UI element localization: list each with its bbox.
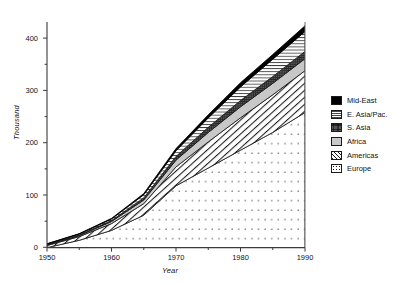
legend-item-europe[interactable]: Europe bbox=[331, 162, 403, 176]
horizontal-lines-swatch-icon bbox=[331, 110, 342, 119]
x-axis-title: Year bbox=[40, 266, 300, 275]
y-tick-label-100: 100 bbox=[12, 191, 38, 200]
legend-label-africa: Africa bbox=[347, 137, 366, 146]
x-axis-major-ticks bbox=[47, 248, 305, 252]
x-tick-label-1970: 1970 bbox=[161, 253, 191, 262]
legend-item-s-asia[interactable]: S. Asia bbox=[331, 121, 403, 135]
x-tick-label-1960: 1960 bbox=[97, 253, 127, 262]
legend-label-e-asia-pac: E. Asia/Pac. bbox=[347, 110, 387, 119]
y-tick-label-400: 400 bbox=[12, 34, 38, 43]
diagonal-hatch-swatch-icon bbox=[331, 151, 342, 160]
solid-black-swatch-icon bbox=[331, 96, 342, 105]
chart-legend: Mid-East E. Asia/Pac. S. Asia Africa Ame… bbox=[331, 94, 403, 176]
legend-label-s-asia: S. Asia bbox=[347, 123, 370, 132]
stacked-area-chart-figure: 400 300 200 100 0 1950 1960 1970 1980 19… bbox=[0, 0, 404, 285]
dotted-swatch-icon bbox=[331, 164, 342, 173]
dark-stipple-swatch-icon bbox=[331, 123, 342, 132]
light-gray-swatch-icon bbox=[331, 137, 342, 146]
x-tick-label-1950: 1950 bbox=[32, 253, 62, 262]
x-tick-label-1980: 1980 bbox=[226, 253, 256, 262]
y-axis-major-ticks bbox=[43, 38, 47, 247]
legend-item-mid-east[interactable]: Mid-East bbox=[331, 94, 403, 108]
legend-item-americas[interactable]: Americas bbox=[331, 148, 403, 162]
legend-item-e-asia-pac[interactable]: E. Asia/Pac. bbox=[331, 108, 403, 122]
legend-label-americas: Americas bbox=[347, 151, 378, 160]
legend-item-africa[interactable]: Africa bbox=[331, 135, 403, 149]
legend-label-mid-east: Mid-East bbox=[347, 96, 377, 105]
y-tick-label-0: 0 bbox=[12, 243, 38, 252]
legend-label-europe: Europe bbox=[347, 164, 371, 173]
x-tick-label-1990: 1990 bbox=[290, 253, 320, 262]
y-axis-title: Thousand bbox=[12, 93, 21, 153]
